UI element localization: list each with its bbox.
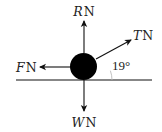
particle-body bbox=[70, 53, 97, 80]
force-diagram: RN TN FN WN 19° bbox=[0, 0, 162, 132]
reaction-force-label: RN bbox=[72, 4, 94, 19]
tension-force-label: TN bbox=[133, 28, 153, 43]
friction-force-label: FN bbox=[15, 60, 37, 75]
force-diagram-canvas: RN TN FN WN 19° bbox=[0, 0, 162, 132]
tension-force-arrow bbox=[96, 40, 131, 59]
weight-force-label: WN bbox=[72, 115, 97, 130]
angle-label: 19° bbox=[112, 58, 130, 73]
